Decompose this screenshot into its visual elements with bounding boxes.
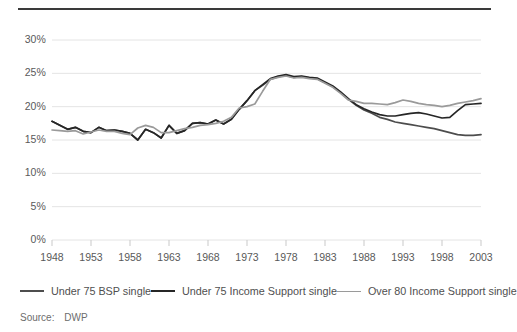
legend-item[interactable]: Under 75 BSP single (20, 285, 151, 297)
legend-item-label: Under 75 Income Support single (182, 285, 337, 297)
legend-line-swatch (151, 290, 175, 292)
x-axis-tick-label: 2003 (461, 251, 501, 263)
x-axis-tick-label: 1953 (71, 251, 111, 263)
x-tick-marks-group (52, 240, 481, 246)
x-axis-tick-label: 1958 (110, 251, 150, 263)
y-axis-tick-label: 25% (2, 66, 46, 78)
gridlines-group (52, 40, 481, 240)
x-axis-tick-label: 1963 (149, 251, 189, 263)
legend-item[interactable]: Over 80 Income Support single (337, 285, 517, 297)
chart-legend: Under 75 BSP singleUnder 75 Income Suppo… (20, 281, 490, 301)
legend-item-label: Under 75 BSP single (51, 285, 151, 297)
y-axis-tick-label: 30% (2, 33, 46, 45)
data-series-group (52, 75, 481, 140)
legend-item[interactable]: Under 75 Income Support single (151, 285, 337, 297)
y-axis-tick-label: 20% (2, 100, 46, 112)
y-axis-tick-label: 5% (2, 200, 46, 212)
source-value: DWP (64, 312, 87, 323)
line-chart-plot (0, 0, 499, 265)
y-axis-tick-label: 10% (2, 166, 46, 178)
x-axis-tick-label: 1993 (383, 251, 423, 263)
y-axis-tick-label: 15% (2, 133, 46, 145)
x-axis-tick-label: 1983 (305, 251, 345, 263)
legend-line-swatch (337, 291, 361, 292)
source-note: Source: DWP (20, 312, 88, 323)
x-axis-tick-label: 1978 (266, 251, 306, 263)
legend-line-swatch (20, 290, 44, 292)
x-axis-tick-label: 1948 (32, 251, 72, 263)
x-axis-tick-label: 1968 (188, 251, 228, 263)
x-axis-tick-label: 1988 (344, 251, 384, 263)
y-axis-tick-label: 0% (2, 233, 46, 245)
legend-item-label: Over 80 Income Support single (368, 285, 517, 297)
x-axis-tick-label: 1973 (227, 251, 267, 263)
source-label: Source: (20, 312, 54, 323)
x-axis-tick-label: 1998 (422, 251, 462, 263)
